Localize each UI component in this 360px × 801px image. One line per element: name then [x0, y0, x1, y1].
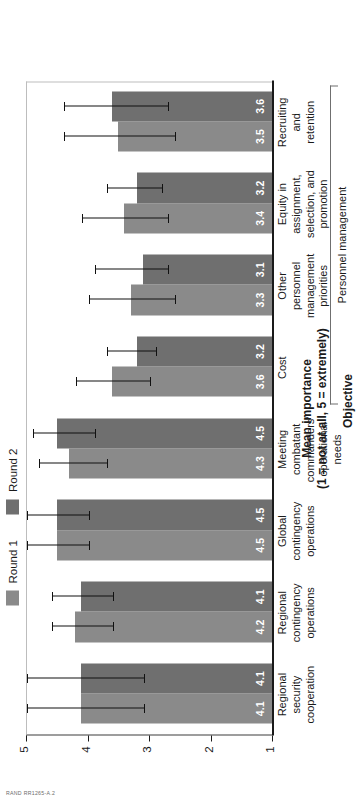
category-label-line: Equity in — [276, 163, 290, 245]
bar-value-label: 4.5 — [254, 499, 266, 529]
error-bar-cap-lower — [89, 540, 90, 549]
error-bar-cap-upper — [39, 459, 40, 468]
bar-value-label: 3.3 — [254, 284, 266, 314]
bar-value-label: 4.5 — [254, 530, 266, 560]
error-bar-cap-upper — [27, 510, 28, 519]
category-label: Globalcontingencyoperations — [276, 490, 317, 572]
error-bar-line — [107, 187, 162, 188]
error-bar-cap-upper — [52, 592, 53, 601]
category-label-line: Regional — [276, 653, 290, 735]
category-label-line: operational — [317, 408, 331, 490]
category-label: Regionalcontingencyoperations — [276, 572, 317, 654]
value-axis-tick-mark — [272, 735, 273, 741]
error-bar-cap-lower — [144, 674, 145, 683]
category-label-line: contingency — [290, 490, 304, 572]
error-bar-cap-lower — [144, 704, 145, 713]
category-label-line: operations — [304, 572, 318, 654]
bar-value-label: 4.2 — [254, 611, 266, 641]
error-bar-cap-lower — [168, 101, 169, 110]
error-bar-cap-upper — [64, 101, 65, 110]
error-bar-cap-upper — [64, 132, 65, 141]
category-label-line: security — [290, 653, 304, 735]
category-label-line: cooperation — [304, 653, 318, 735]
error-bar-line — [27, 677, 144, 678]
error-bar-line — [39, 462, 107, 463]
error-bar-cap-upper — [76, 377, 77, 386]
bar-value-label: 4.5 — [254, 418, 266, 448]
value-axis-tick-label: 2 — [203, 746, 215, 752]
category-label-line: management — [304, 245, 318, 327]
error-bar-line — [33, 432, 95, 433]
category-label-line: Meeting — [276, 408, 290, 490]
bar-value-label: 3.1 — [254, 254, 266, 284]
bar-series-container: 4.14.14.24.14.54.54.34.53.63.23.33.13.43… — [27, 82, 272, 734]
bar-value-label: 3.2 — [254, 172, 266, 202]
bar-value-label: 3.6 — [254, 366, 266, 396]
category-label: Recruitingandretention — [276, 81, 317, 163]
value-axis-tick-mark — [26, 735, 27, 741]
category-label: Otherpersonnelmanagementpriorities — [276, 245, 331, 327]
legend-item-round-1: Round 1 — [6, 540, 19, 605]
error-bar-line — [27, 544, 89, 545]
category-label-line: priorities — [317, 245, 331, 327]
error-bar-line — [64, 135, 175, 136]
error-bar-cap-upper — [27, 704, 28, 713]
error-bar-cap-lower — [168, 265, 169, 274]
error-bar-cap-upper — [33, 428, 34, 437]
bar-value-label: 4.1 — [254, 693, 266, 723]
value-axis-tick-label: 3 — [141, 746, 153, 752]
error-bar-line — [89, 299, 175, 300]
category-label: Cost — [276, 326, 290, 408]
error-bar-cap-upper — [27, 674, 28, 683]
category-axis-labels: RegionalsecuritycooperationRegionalconti… — [276, 80, 336, 735]
error-bar-cap-upper — [82, 213, 83, 222]
error-bar-cap-lower — [89, 510, 90, 519]
error-bar-cap-lower — [95, 428, 96, 437]
plot-area: 4.14.14.24.14.54.54.34.53.63.23.33.13.43… — [26, 81, 272, 735]
error-bar-cap-upper — [27, 540, 28, 549]
bar-value-label: 4.1 — [254, 581, 266, 611]
category-label-line: Global — [276, 490, 290, 572]
category-label: Regionalsecuritycooperation — [276, 653, 317, 735]
error-bar-line — [52, 626, 114, 627]
error-bar-line — [107, 350, 156, 351]
bar-value-label: 3.5 — [254, 121, 266, 151]
category-label-line: and — [290, 81, 304, 163]
figure-page: Round 1 Round 2 4.14.14.24.14.54.54.34.5… — [0, 0, 360, 801]
category-label-line: Recruiting — [276, 81, 290, 163]
error-bar-line — [95, 268, 169, 269]
error-bar-line — [27, 707, 144, 708]
error-bar-line — [64, 105, 169, 106]
error-bar-cap-lower — [150, 377, 151, 386]
error-bar-line — [82, 217, 168, 218]
category-label-line: contingency — [290, 572, 304, 654]
error-bar-cap-upper — [107, 347, 108, 356]
value-axis-tick-label: 1 — [264, 746, 276, 752]
value-axis-tick-mark — [211, 735, 212, 741]
bar-value-label: 4.3 — [254, 448, 266, 478]
error-bar-cap-upper — [95, 265, 96, 274]
category-label-line: Cost — [276, 326, 290, 408]
category-label-line: promotion — [317, 163, 331, 245]
bar-value-label: 3.4 — [254, 203, 266, 233]
legend-item-round-2: Round 2 — [6, 448, 19, 513]
category-label: Meetingcombatantcommanders'operationalne… — [276, 408, 345, 490]
category-axis-title: Objective — [341, 0, 355, 801]
bar-value-label: 3.2 — [254, 336, 266, 366]
value-axis-tick-label: 4 — [80, 746, 92, 752]
error-bar-cap-upper — [89, 295, 90, 304]
error-bar-cap-lower — [168, 213, 169, 222]
error-bar-cap-upper — [107, 183, 108, 192]
category-label-line: commanders' — [304, 408, 318, 490]
error-bar-cap-lower — [175, 295, 176, 304]
bar-value-label: 3.6 — [254, 91, 266, 121]
error-bar-cap-upper — [52, 622, 53, 631]
category-label-line: Regional — [276, 572, 290, 654]
error-bar-cap-lower — [156, 347, 157, 356]
value-axis-baseline — [272, 80, 274, 735]
value-axis-tick-mark — [149, 735, 150, 741]
rand-report-tag: RAND RR1265-A.2 — [6, 790, 55, 796]
chart-stage: Round 1 Round 2 4.14.14.24.14.54.54.34.5… — [0, 0, 360, 801]
error-bar-cap-lower — [113, 592, 114, 601]
bar-value-label: 4.1 — [254, 663, 266, 693]
